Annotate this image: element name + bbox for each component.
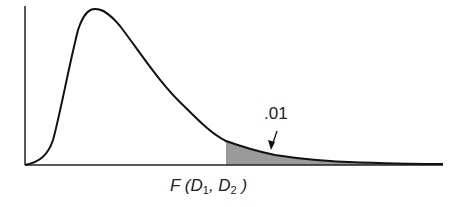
annotation-arrow: [268, 131, 277, 150]
density-curve: [25, 9, 443, 165]
x-axis-label: F (D1, D2 ): [170, 176, 247, 196]
annotation-label: .01: [264, 104, 288, 124]
